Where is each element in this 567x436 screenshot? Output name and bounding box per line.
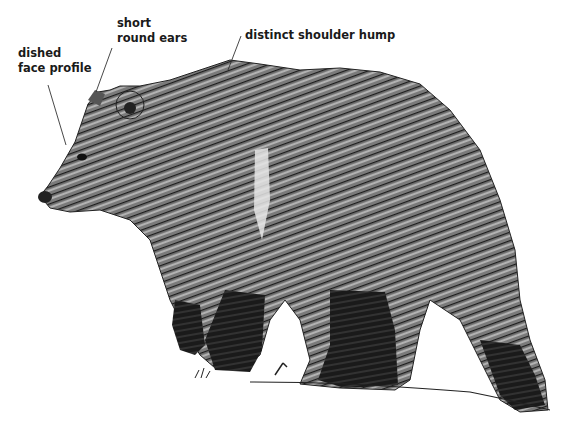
nose [38, 191, 52, 203]
label-line: distinct shoulder hump [245, 28, 395, 43]
label-dished-face-profile: dished face profile [18, 46, 91, 76]
bear-diagram: short round ears dished face profile dis… [0, 0, 567, 436]
label-line: round ears [117, 31, 187, 46]
label-distinct-shoulder-hump: distinct shoulder hump [245, 28, 395, 43]
hind-leg [318, 290, 398, 388]
front-leg-far [172, 300, 205, 355]
label-line: dished [18, 46, 91, 61]
eye [77, 154, 87, 161]
label-short-round-ears: short round ears [117, 16, 187, 46]
leader-line-face [48, 85, 66, 145]
label-line: face profile [18, 61, 91, 76]
bear-body [40, 60, 548, 412]
label-line: short [117, 16, 187, 31]
leader-line-ears [96, 48, 112, 92]
